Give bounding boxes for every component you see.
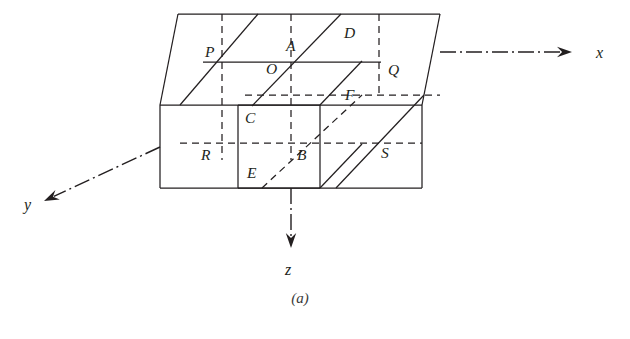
outer-top-right-slant: [422, 14, 440, 105]
vertex-label-f: F: [344, 86, 355, 103]
vertex-label-e: E: [246, 164, 257, 181]
axis-label-x: x: [595, 44, 603, 61]
hidden-diagonal-eb-f: [262, 95, 362, 188]
vertex-label-a: A: [285, 37, 296, 54]
figure-container: PADOQFCRBSE xyz (a): [0, 0, 630, 339]
inner-top-right-slant: [320, 61, 362, 105]
top-face-diagonal-qs: [336, 95, 424, 188]
top-face-left-slant-p: [180, 14, 258, 105]
geometry-diagram: PADOQFCRBSE xyz (a): [0, 0, 630, 339]
figure-caption: (a): [291, 290, 309, 307]
axes-group: [44, 47, 572, 248]
vertex-label-p: P: [204, 43, 215, 60]
axis-label-z: z: [284, 261, 292, 278]
vertex-label-q: Q: [388, 61, 399, 78]
vertex-label-s: S: [381, 144, 389, 161]
axis-labels-group: xyz: [22, 44, 603, 278]
vertex-label-o: O: [266, 60, 277, 77]
vertex-label-c: C: [245, 109, 256, 126]
outer-top-left-slant: [160, 14, 178, 105]
vertex-label-r: R: [200, 146, 211, 163]
vertex-label-b: B: [297, 146, 307, 163]
axis-label-y: y: [22, 196, 32, 214]
axis-y-line: [54, 147, 160, 196]
inner-bottom-right-slant: [320, 144, 362, 188]
vertex-label-d: D: [343, 24, 355, 41]
hidden-edges-group: [180, 14, 440, 188]
